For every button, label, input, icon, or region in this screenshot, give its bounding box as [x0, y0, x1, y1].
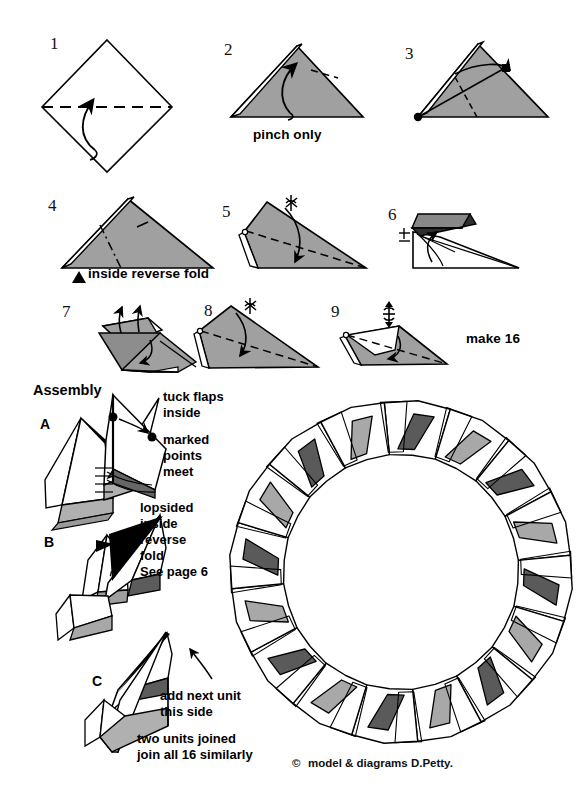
- note-lopsided-fold: lopsided inside reverse fold See page 6: [140, 500, 208, 580]
- step-1-figure: [42, 40, 172, 172]
- finished-ring-figure: [230, 401, 572, 743]
- step-number-9: 9: [331, 302, 340, 322]
- origami-diagram-svg: [0, 0, 583, 812]
- step-number-1: 1: [50, 34, 59, 54]
- step-8-figure: [194, 298, 318, 368]
- note-marked-points: marked points meet: [163, 432, 209, 480]
- step-7-figure: [99, 306, 196, 372]
- step-number-3: 3: [405, 44, 414, 64]
- copyright-symbol: ©: [292, 757, 300, 769]
- step-9-figure: [340, 301, 447, 365]
- step-6-figure: [399, 214, 519, 268]
- step-number-5: 5: [222, 202, 231, 222]
- step-number-7: 7: [62, 302, 71, 322]
- caption-inside-reverse-fold: inside reverse fold: [88, 266, 209, 281]
- assembly-step-B-label: B: [44, 534, 54, 550]
- note-tuck-flaps: tuck flaps inside: [163, 389, 224, 421]
- step-number-6: 6: [388, 205, 397, 225]
- assembly-step-A-label: A: [40, 416, 50, 432]
- step-5-figure: [239, 195, 366, 268]
- note-two-units-joined: two units joined join all 16 similarly: [137, 731, 253, 763]
- note-add-next-unit: add next unit this side: [160, 688, 241, 720]
- step-number-4: 4: [48, 196, 57, 216]
- copyright-text: model & diagrams D.Petty.: [308, 757, 453, 769]
- diagram-sheet: 1 2 3 4 5 6 7 8 9 pinch only inside reve…: [0, 0, 583, 812]
- step-number-2: 2: [224, 40, 233, 60]
- step-2-figure: [231, 44, 363, 120]
- assembly-step-C-label: C: [92, 673, 102, 689]
- assembly-heading: Assembly: [33, 382, 102, 398]
- caption-make-16: make 16: [466, 331, 520, 346]
- step-3-figure: [414, 42, 548, 121]
- caption-pinch-only: pinch only: [253, 127, 322, 142]
- step-number-8: 8: [204, 301, 213, 321]
